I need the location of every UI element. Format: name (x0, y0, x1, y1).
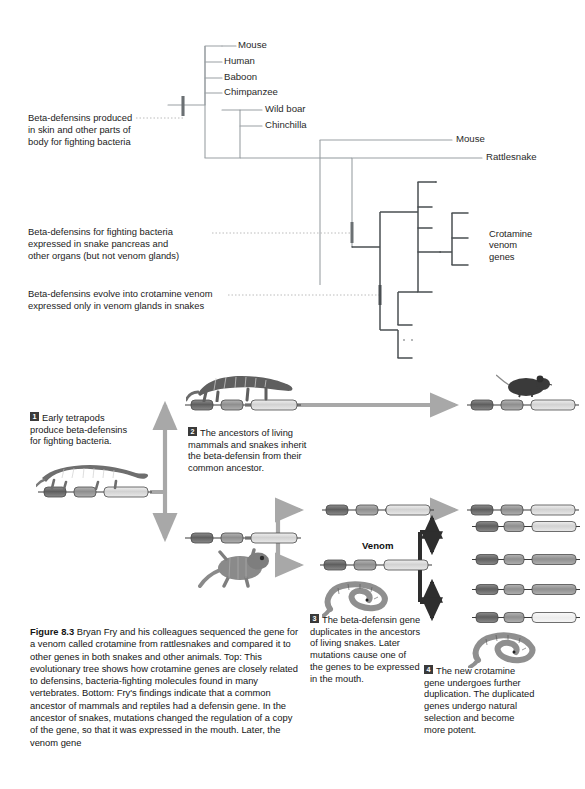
step-3-text: The beta-defensin gene duplicates in the… (310, 615, 420, 684)
gene-bar-crotamine-3 (470, 582, 582, 597)
snake-icon-2 (468, 628, 544, 668)
tip-label-human: Human (224, 55, 255, 66)
tetrapod-icon (36, 458, 154, 490)
gene-bar-reptile-ancestor (183, 530, 303, 546)
gene-bar-crotamine-2 (470, 552, 582, 567)
annotation-crotamine-venom: Beta-defensins evolve into crotamine ven… (28, 288, 258, 312)
gene-bar-lizard-copy (465, 502, 581, 518)
figure-caption-text: Bryan Fry and his colleagues sequenced t… (30, 627, 298, 748)
figure-8-3: Mouse Human Baboon Chimpanzee Wild boar … (0, 0, 585, 789)
tip-label-mouse-2: Mouse (456, 133, 485, 144)
step-2: 2The ancestors of living mammals and sna… (188, 427, 338, 475)
tip-label-wild-boar: Wild boar (265, 103, 306, 114)
gene-bar-lizard (320, 502, 436, 518)
venom-label: Venom (362, 540, 393, 551)
tip-label-chinchilla: Chinchilla (265, 119, 307, 130)
mouse-icon (496, 372, 554, 398)
gene-bar-crotamine-1 (470, 519, 582, 534)
gene-bar-crotamine-4 (470, 610, 582, 625)
figure-caption: Figure 8.3 Bryan Fry and his colleagues … (30, 626, 302, 749)
annotation-beta-defensins-pancreas: Beta-defensins for fighting bacteria exp… (28, 226, 228, 263)
step-4: 4The new crotamine gene undergoes furthe… (424, 665, 554, 736)
cynodont-icon (186, 368, 296, 402)
tip-label-rattlesnake: Rattlesnake (486, 151, 537, 162)
step-4-number: 4 (424, 665, 433, 674)
step-3-number: 3 (310, 614, 319, 623)
step-4-text: The new crotamine gene undergoes further… (424, 666, 534, 735)
figure-number: Figure 8.3 (30, 627, 74, 637)
phylogenetic-tree (0, 0, 585, 370)
arrow-dup-1 (420, 518, 432, 532)
step-2-number: 2 (188, 427, 197, 436)
lizard-icon (198, 546, 278, 588)
tip-label-baboon: Baboon (224, 71, 257, 82)
step-1: 1Early tetrapods produce beta-defensins … (30, 412, 155, 448)
step-1-text: Early tetrapods produce beta-defensins f… (30, 413, 127, 446)
gene-bar-snake-venom (318, 557, 434, 573)
step-1-number: 1 (30, 412, 39, 421)
tip-label-mouse-1: Mouse (238, 39, 267, 50)
tip-label-chimpanzee: Chimpanzee (224, 86, 278, 97)
snake-icon (322, 575, 396, 617)
gene-bar-mouse (465, 397, 581, 413)
annotation-beta-defensins-skin: Beta-defensins produced in skin and othe… (28, 112, 188, 149)
crotamine-venom-genes-label: Crotamine venom genes (489, 228, 532, 262)
step-3: 3The beta-defensin gene duplicates in th… (310, 614, 430, 685)
step-2-text: The ancestors of living mammals and snak… (188, 428, 306, 473)
